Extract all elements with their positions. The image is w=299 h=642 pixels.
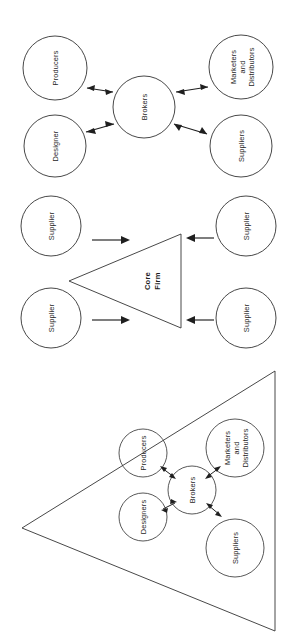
node-label-marketers-line2: and <box>232 442 241 455</box>
node-label-supplier-1: Supplier <box>47 211 56 240</box>
node-supplier-1: Supplier <box>21 196 81 256</box>
node-suppliers: Suppliers <box>206 519 264 577</box>
arrow-supplier-1-to-core <box>92 236 130 244</box>
node-label-brokers: Brokers <box>188 477 197 504</box>
node-label-marketers-line3: Distributors <box>241 428 250 467</box>
core-firm-label-line1: Core <box>143 272 152 290</box>
node-label-suppliers: Suppliers <box>237 130 246 162</box>
core-firm-label: Core Firm <box>143 272 162 290</box>
core-firm-triangle <box>69 234 181 328</box>
connector-brokers-suppliers <box>206 503 222 517</box>
node-label-marketers-line1: Marketers <box>229 50 238 84</box>
node-label-suppliers: Suppliers <box>231 532 240 564</box>
arrow-supplier-4-to-core <box>186 316 214 324</box>
embedded-network-triangle <box>22 371 275 631</box>
node-producers: Producers <box>119 429 167 477</box>
node-label-designers: Designers <box>139 500 148 535</box>
node-label-marketers-line3: Distributors <box>247 47 256 86</box>
node-label-designer: Designer <box>51 130 60 161</box>
arrow-supplier-3-to-core <box>92 316 130 324</box>
supply-chain-diagram: Producers Marketers and Distributors Des… <box>0 0 299 642</box>
node-label-producers: Producers <box>139 435 148 470</box>
arrow-supplier-2-to-core <box>186 234 214 242</box>
node-marketers-distributors: Marketers and Distributors <box>209 35 273 99</box>
node-label-supplier-2: Supplier <box>242 211 251 240</box>
connector-producers-brokers <box>160 466 176 479</box>
node-supplier-3: Supplier <box>21 288 81 348</box>
connector-designer-brokers <box>86 121 114 134</box>
connector-brokers-marketers <box>205 466 221 479</box>
connector-brokers-marketers <box>176 84 208 95</box>
core-firm-label-line2: Firm <box>153 272 162 289</box>
node-supplier-4: Supplier <box>216 288 276 348</box>
node-producers: Producers <box>23 36 87 100</box>
node-label-marketers-line2: and <box>238 61 247 74</box>
panel-embedded-network: Producers Designers Brokers Marketers an… <box>22 371 275 631</box>
panel-broker-network: Producers Marketers and Distributors Des… <box>23 35 273 177</box>
node-label-supplier-4: Supplier <box>242 303 251 332</box>
panel-core-firm: Core Firm Supplier Supplier Supplier <box>21 196 276 348</box>
node-label-producers: Producers <box>51 50 60 85</box>
diagram-canvas: Producers Marketers and Distributors Des… <box>0 0 299 642</box>
connector-brokers-suppliers <box>174 124 207 134</box>
node-suppliers: Suppliers <box>210 115 272 177</box>
node-brokers-center: Brokers <box>113 76 175 138</box>
node-designers: Designers <box>119 493 167 541</box>
node-label-brokers: Brokers <box>140 94 149 121</box>
node-designer: Designer <box>24 115 86 177</box>
connector-producers-brokers <box>87 85 113 95</box>
node-label-marketers-line1: Marketers <box>223 431 232 465</box>
node-supplier-2: Supplier <box>216 196 276 256</box>
node-label-supplier-3: Supplier <box>47 303 56 332</box>
